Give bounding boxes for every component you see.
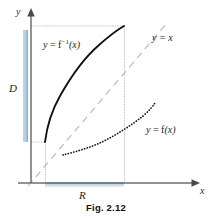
figure-caption: Fig. 2.12 xyxy=(0,202,212,213)
figure-container: y x D R y = f−1(x) y = x y = f(x) Fig. 2… xyxy=(0,0,212,221)
forward-label-argument: (x) xyxy=(164,124,175,135)
forward-label-equals: = xyxy=(150,124,161,135)
inverse-function-label: y = f−1(x) xyxy=(43,40,80,50)
domain-highlight-bar xyxy=(24,30,29,142)
identity-line-label: y = x xyxy=(152,33,173,43)
domain-label: D xyxy=(9,83,17,94)
x-axis-label: x xyxy=(200,186,204,196)
x-axis-arrowhead xyxy=(192,179,201,186)
figure-graphic xyxy=(0,0,212,221)
inverse-label-equals: = xyxy=(47,39,58,50)
range-label: R xyxy=(79,190,86,201)
y-axis-arrowhead xyxy=(27,8,34,17)
inverse-label-argument: (x) xyxy=(69,39,80,50)
inverse-label-exponent: −1 xyxy=(61,38,68,46)
y-axis-label: y xyxy=(16,7,20,17)
forward-function-label: y = f(x) xyxy=(146,125,176,135)
